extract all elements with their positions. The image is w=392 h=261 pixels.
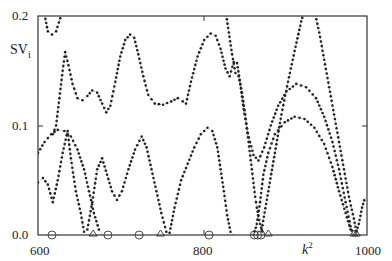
series-curve-top-left [42, 9, 62, 36]
x-tick-600: 600 [30, 243, 50, 259]
y-axis-label: SVi [10, 42, 31, 60]
chart-plot [0, 0, 392, 261]
series-curve-lower [37, 126, 234, 235]
series-curve-upper [52, 32, 354, 235]
x-tick-800: 800 [193, 243, 213, 259]
ticks [38, 16, 367, 235]
plot-frame [38, 16, 367, 235]
x-tick-1000: 1000 [355, 243, 381, 259]
series-curve-right-rise [260, 11, 304, 231]
y-tick-0.2: 0.2 [12, 8, 28, 24]
series-curve-right-steep-a [224, 9, 263, 235]
y-tick-0.1: 0.1 [12, 118, 28, 134]
series-curve-right-fall [313, 9, 358, 235]
y-tick-0.0: 0.0 [12, 227, 28, 243]
x-axis-label: k2 [302, 240, 313, 258]
series-layer [37, 9, 366, 236]
